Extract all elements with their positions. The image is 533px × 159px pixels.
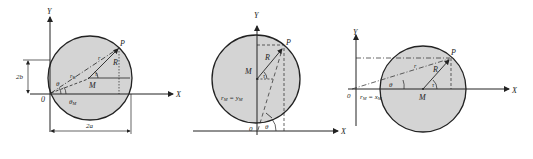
center-m-label: M	[418, 93, 427, 102]
theta-label: θ	[265, 123, 269, 131]
width-2a-label: 2a	[86, 122, 94, 130]
center-m-label: M	[88, 81, 97, 90]
origin-label: 0	[249, 125, 253, 133]
y-axis-label: Y	[47, 7, 53, 16]
theta-label: θ	[389, 81, 393, 89]
center-dot	[422, 88, 424, 90]
diagram-general-position: Y X 0 P R r M τ rM θ θM 2b 2a	[16, 7, 182, 134]
origin-label: 0	[41, 95, 45, 104]
x-axis-label: X	[340, 127, 347, 136]
diagram-centered-on-y-axis: Y X 0 P R M τ θ rM = yM	[193, 11, 347, 136]
center-dot	[256, 78, 258, 80]
origin-label: 0	[347, 92, 351, 100]
rm-label: rM	[70, 73, 76, 80]
center-m-label: M	[244, 67, 253, 76]
radius-label: R	[264, 53, 270, 62]
x-axis-label: X	[511, 86, 518, 95]
radius-label: R	[112, 58, 118, 67]
figure-canvas: Y X 0 P R r M τ rM θ θM 2b 2a	[0, 0, 533, 159]
point-p-label: P	[285, 38, 291, 47]
theta-arc	[272, 119, 276, 131]
x-axis-label: X	[175, 90, 182, 99]
y-axis-label: Y	[254, 11, 260, 20]
point-p-label: P	[450, 48, 456, 57]
point-p-label: P	[119, 39, 125, 48]
y-axis-label: Y	[353, 28, 359, 37]
theta-label: θ	[56, 80, 60, 88]
radius-label: R	[432, 65, 438, 74]
height-2b-label: 2b	[16, 73, 24, 81]
rm-equals-xm-label: rM = xM	[360, 93, 382, 101]
diagram-centered-on-x-axis: Y X 0 P R r M τ θ rM = xM	[347, 28, 518, 132]
disk	[212, 35, 300, 123]
